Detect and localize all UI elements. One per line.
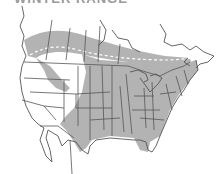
us-range — [36, 54, 198, 152]
range-map — [0, 0, 220, 174]
